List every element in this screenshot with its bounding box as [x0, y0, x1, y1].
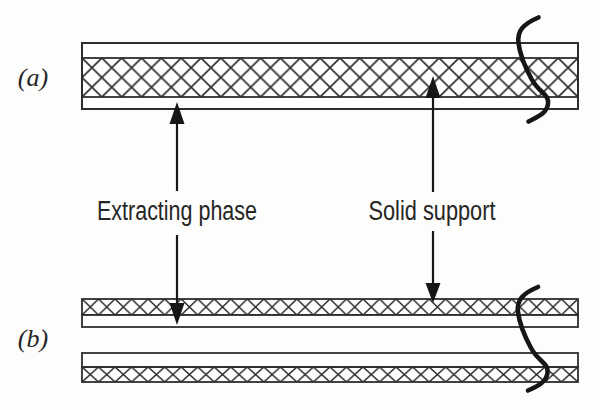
- panel-a-extracting-phase-layer: [82, 58, 578, 97]
- panel-b-label: (b): [18, 324, 48, 353]
- panel-b-bottom-support-strip: [82, 353, 578, 367]
- panel-b-top-support-strip: [82, 315, 578, 327]
- panel-b: (b): [18, 287, 578, 391]
- figure-canvas: (a) (b) Extracting phase Solid support: [0, 0, 600, 410]
- extracting-phase-callout: Extracting phase: [97, 102, 257, 325]
- panel-a: (a): [18, 18, 578, 122]
- panel-b-top-extracting-phase-layer: [82, 299, 578, 315]
- schematic-figure: (a) (b) Extracting phase Solid support: [0, 0, 600, 410]
- panel-b-bottom-extracting-phase-layer: [82, 367, 578, 382]
- solid-support-callout: Solid support: [369, 76, 496, 303]
- extracting-phase-label: Extracting phase: [97, 196, 257, 226]
- panel-a-label: (a): [18, 63, 48, 92]
- solid-support-label: Solid support: [369, 196, 496, 226]
